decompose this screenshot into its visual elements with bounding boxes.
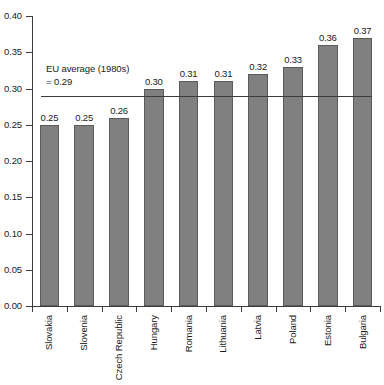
x-axis-category-label-text: Poland xyxy=(288,315,298,344)
y-axis-tick-label: 0.25 xyxy=(0,120,22,130)
bar xyxy=(74,125,93,306)
bar xyxy=(318,45,337,306)
x-axis-category-label: Latvia xyxy=(241,315,276,385)
x-axis-category-label: Estonia xyxy=(310,315,345,385)
y-axis-tick-label: 0.05 xyxy=(0,265,22,275)
eu-average-annotation: EU average (1980s) = 0.29 xyxy=(46,63,129,88)
bar-chart: 0.400.350.300.250.200.150.100.050.00 0.2… xyxy=(0,0,384,385)
x-axis-category-label: Czech Republic xyxy=(102,315,137,385)
bar xyxy=(353,38,372,306)
bar xyxy=(109,118,128,307)
bar xyxy=(214,81,233,306)
bar-value-label: 0.26 xyxy=(102,106,137,116)
x-axis-category-label-text: Slovakia xyxy=(45,315,55,350)
x-axis-category-label: Hungary xyxy=(136,315,171,385)
y-axis-tick-label: 0.00 xyxy=(0,301,22,311)
x-axis-category-label: Lithuania xyxy=(206,315,241,385)
bar xyxy=(283,67,302,306)
bar-value-label: 0.36 xyxy=(310,33,345,43)
bar-value-label: 0.25 xyxy=(32,113,67,123)
x-axis-category-label-text: Hungary xyxy=(149,315,159,350)
x-axis-tick xyxy=(67,306,68,312)
eu-average-annotation-line1: EU average (1980s) xyxy=(46,63,129,76)
x-axis-category-label: Slovenia xyxy=(67,315,102,385)
x-axis-category-label: Romania xyxy=(171,315,206,385)
x-axis-category-label: Poland xyxy=(276,315,311,385)
bar xyxy=(144,89,163,307)
eu-average-annotation-line2: = 0.29 xyxy=(46,76,129,89)
bar xyxy=(40,125,59,306)
y-axis-tick-label: 0.40 xyxy=(0,11,22,21)
x-axis-category-label-text: Bulgaria xyxy=(358,315,368,349)
x-axis-tick xyxy=(206,306,207,312)
y-axis-tick-label: 0.35 xyxy=(0,47,22,57)
x-axis-category-label-text: Slovenia xyxy=(79,315,89,351)
x-axis-tick xyxy=(380,306,381,312)
x-axis-tick xyxy=(276,306,277,312)
x-axis-category-label-text: Estonia xyxy=(323,315,333,346)
bar xyxy=(179,81,198,306)
y-axis-tick-label: 0.30 xyxy=(0,84,22,94)
bar-value-label: 0.32 xyxy=(241,62,276,72)
bar xyxy=(248,74,267,306)
bar-value-label: 0.31 xyxy=(206,69,241,79)
x-axis-category-label-text: Czech Republic xyxy=(114,315,124,380)
x-axis-category-label-text: Lithuania xyxy=(219,315,229,353)
x-axis-category-label: Bulgaria xyxy=(345,315,380,385)
plot-area xyxy=(32,16,380,306)
x-axis-tick xyxy=(32,306,33,312)
y-axis-tick-label: 0.20 xyxy=(0,156,22,166)
bar-value-label: 0.33 xyxy=(276,55,311,65)
bar-value-label: 0.31 xyxy=(171,69,206,79)
x-axis-tick xyxy=(171,306,172,312)
bar-value-label: 0.30 xyxy=(136,77,171,87)
x-axis-category-label-text: Latvia xyxy=(253,315,263,340)
y-axis-tick-label: 0.15 xyxy=(0,192,22,202)
x-axis-tick xyxy=(102,306,103,312)
bar-value-label: 0.37 xyxy=(345,26,380,36)
eu-average-reference-line xyxy=(41,96,372,97)
y-axis-tick-label: 0.10 xyxy=(0,229,22,239)
x-axis-tick xyxy=(345,306,346,312)
x-axis-tick xyxy=(136,306,137,312)
x-axis-category-label: Slovakia xyxy=(32,315,67,385)
x-axis-tick xyxy=(241,306,242,312)
x-axis-tick xyxy=(310,306,311,312)
x-axis-category-label-text: Romania xyxy=(184,315,194,352)
bar-value-label: 0.25 xyxy=(67,113,102,123)
